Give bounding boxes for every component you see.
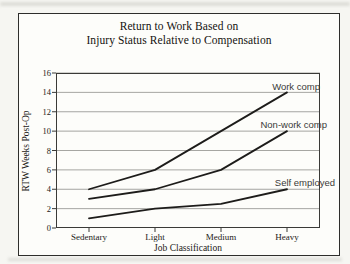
x-tick-label-medium: Medium: [206, 232, 237, 242]
y-tick-label-16: 16: [43, 68, 52, 78]
x-tick-label-heavy: Heavy: [275, 232, 299, 242]
y-tick-label-12: 12: [43, 107, 52, 117]
y-axis-tick-labels: 0246810121416: [19, 73, 51, 228]
y-tick-label-0: 0: [47, 223, 51, 233]
series-line-work-comp: [89, 92, 287, 189]
y-tick-label-10: 10: [43, 126, 52, 136]
y-tick-label-8: 8: [47, 146, 51, 156]
x-tick-label-light: Light: [145, 232, 165, 242]
series-label-non-work-comp: Non-work comp: [260, 119, 327, 130]
chart-title: Return to Work Based on Injury Status Re…: [19, 20, 339, 47]
scan-artifact-top: [0, 2, 350, 6]
y-tick-label-2: 2: [47, 204, 51, 214]
chart-title-line2: Injury Status Relative to Compensation: [19, 34, 339, 48]
series-line-self-employed: [89, 189, 287, 218]
figure-box: Return to Work Based on Injury Status Re…: [18, 13, 340, 256]
y-tick-label-14: 14: [43, 87, 52, 97]
x-tick-label-sedentary: Sedentary: [71, 232, 107, 242]
y-tick-label-4: 4: [47, 184, 51, 194]
chart-title-line1: Return to Work Based on: [19, 20, 339, 34]
y-tick-label-6: 6: [47, 165, 51, 175]
plot-area: [56, 73, 320, 228]
series-label-work-comp: Work comp: [272, 81, 320, 92]
series-label-self-employed: Self employed: [275, 177, 335, 188]
series-line-non-work-comp: [89, 131, 287, 199]
x-axis-title: Job Classification: [56, 243, 320, 253]
scan-artifact-bottom: [8, 258, 342, 261]
